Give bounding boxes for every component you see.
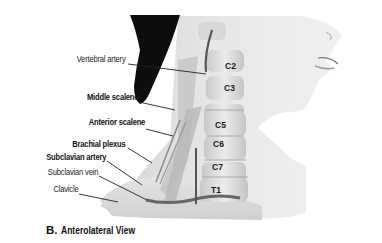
label-middle-scalene: Middle scalene: [87, 92, 138, 102]
label-subclavian-artery: Subclavian artery: [46, 152, 106, 162]
figure-caption: B.Anterolateral View: [46, 224, 148, 236]
label-subclavian-vein: Subclavian vein: [48, 167, 98, 177]
vertebra-label-c6: C6: [213, 138, 224, 149]
vertebra-label-c2: C2: [225, 60, 236, 71]
vertebra-label-c3: C3: [224, 82, 235, 93]
neck-illustration: [0, 0, 382, 243]
caption-letter: B.: [46, 224, 58, 236]
vertebra-label-c5: C5: [215, 119, 226, 130]
caption-text: Anterolateral View: [61, 225, 135, 236]
label-clavicle: Clavicle: [53, 184, 78, 194]
label-anterior-scalene: Anterior scalene: [89, 117, 145, 127]
hair: [130, 15, 180, 104]
vertebra-label-c7: C7: [212, 161, 223, 172]
label-vertebral-artery: Vertebral artery: [77, 54, 126, 64]
vertebra-label-t1: T1: [211, 184, 221, 195]
label-brachial-plexus: Brachial plexus: [73, 139, 126, 149]
anatomy-figure: Vertebral artery Middle scalene Anterior…: [0, 0, 382, 243]
